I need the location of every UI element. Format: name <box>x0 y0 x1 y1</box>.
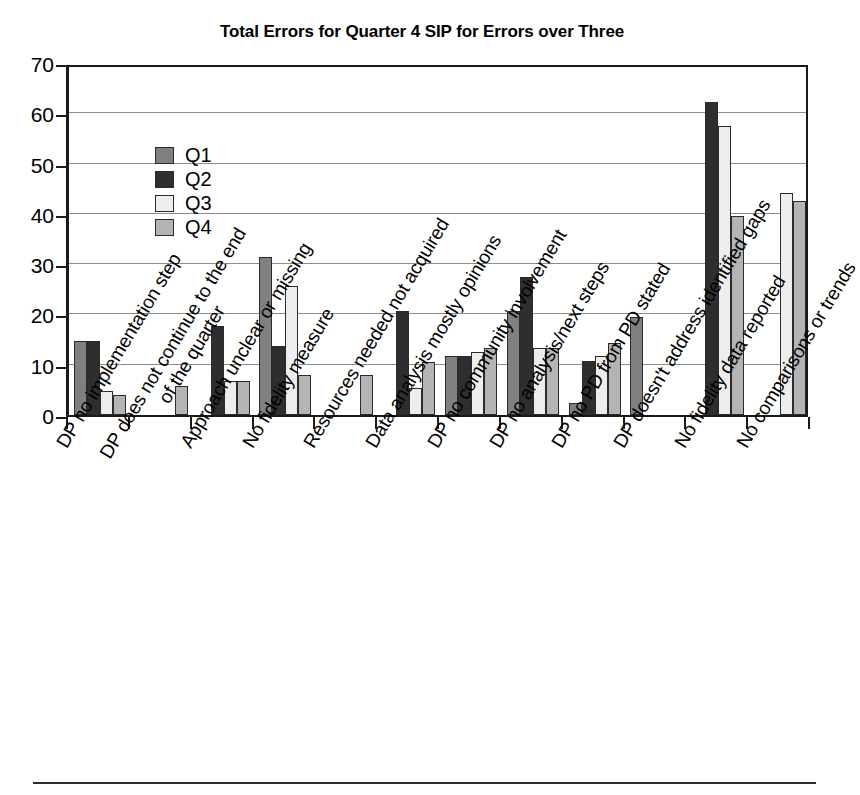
y-tick-label: 20 <box>31 305 54 326</box>
y-tick-label: 30 <box>31 255 54 276</box>
bar-q4 <box>793 201 806 415</box>
legend-label: Q2 <box>185 169 212 189</box>
legend-swatch-q2 <box>155 171 174 188</box>
x-axis-labels: DP no implementation stepDP does not con… <box>0 430 844 760</box>
bar-q4 <box>360 375 373 415</box>
y-tick-mark <box>56 115 66 117</box>
bar-q4 <box>237 381 250 415</box>
y-tick-mark <box>56 367 66 369</box>
y-tick-label: 60 <box>31 104 54 125</box>
y-tick-label: 40 <box>31 205 54 226</box>
legend-label: Q1 <box>185 145 212 165</box>
chart-title: Total Errors for Quarter 4 SIP for Error… <box>0 22 844 42</box>
legend-item-q4: Q4 <box>155 217 212 237</box>
y-tick-mark <box>56 266 66 268</box>
y-tick-label: 70 <box>31 54 54 75</box>
legend-item-q3: Q3 <box>155 193 212 213</box>
legend-swatch-q1 <box>155 147 174 164</box>
legend-label: Q3 <box>185 193 212 213</box>
y-tick-label: 10 <box>31 356 54 377</box>
bottom-divider <box>33 782 816 784</box>
legend: Q1Q2Q3Q4 <box>155 145 212 237</box>
legend-swatch-q4 <box>155 219 174 236</box>
legend-item-q2: Q2 <box>155 169 212 189</box>
y-tick-mark <box>56 166 66 168</box>
y-tick-label: 0 <box>42 406 54 427</box>
y-tick-mark <box>56 216 66 218</box>
bar-q4 <box>298 375 311 415</box>
legend-swatch-q3 <box>155 195 174 212</box>
y-tick-mark <box>56 65 66 67</box>
x-tick-mark <box>808 417 810 429</box>
legend-label: Q4 <box>185 217 212 237</box>
y-tick-mark <box>56 316 66 318</box>
y-tick-label: 50 <box>31 155 54 176</box>
legend-item-q1: Q1 <box>155 145 212 165</box>
